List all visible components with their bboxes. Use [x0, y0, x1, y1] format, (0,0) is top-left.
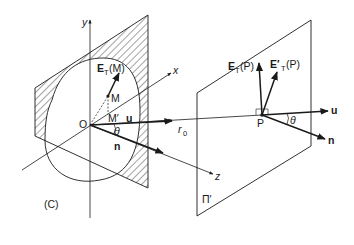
point-M-prime-label: M′	[108, 112, 119, 124]
diffraction-geometry-diagram: y x z O M M′ u n θ (C) E T (M) r 0 Π′ P …	[0, 0, 354, 245]
angle-theta-obs: θ	[290, 114, 296, 126]
svg-text:(M): (M)	[109, 62, 125, 74]
vector-u-source-label: u	[126, 112, 132, 124]
svg-text:(P): (P)	[286, 58, 300, 70]
plane-pi-prime-label: Π′	[202, 193, 212, 205]
distance-r0-label: r 0	[178, 123, 187, 138]
field-ET-P-label: E T (P)	[228, 60, 254, 75]
field-ET-prime-P-label: E′ T (P)	[270, 58, 300, 73]
vector-u-obs-label: u	[331, 104, 337, 116]
svg-text:0: 0	[183, 129, 187, 138]
svg-text:E: E	[228, 60, 235, 72]
svg-text:(P): (P)	[240, 60, 254, 72]
y-axis-label: y	[81, 16, 88, 28]
svg-text:r: r	[178, 123, 182, 135]
svg-text:E′: E′	[270, 58, 280, 70]
origin-label: O	[79, 118, 87, 130]
point-P-label: P	[257, 117, 264, 129]
z-axis-label: z	[214, 170, 221, 182]
aperture-label: (C)	[44, 198, 59, 210]
x-axis-label: x	[172, 64, 179, 76]
vector-n-obs-label: n	[328, 134, 334, 146]
angle-arc-obs	[287, 113, 289, 124]
vector-n-source-label: n	[114, 140, 120, 152]
source-screen	[35, 15, 148, 188]
svg-text:E: E	[97, 62, 104, 74]
angle-theta-source: θ	[114, 125, 120, 137]
point-M-label: M	[111, 92, 120, 104]
vector-ET-prime-P	[262, 72, 277, 115]
vector-ET-P	[259, 63, 262, 115]
